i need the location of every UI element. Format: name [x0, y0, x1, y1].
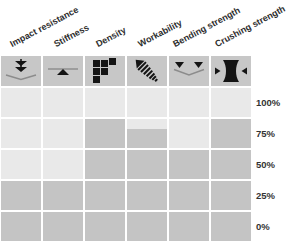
grid-cell [211, 212, 251, 241]
grid-cell [127, 150, 167, 179]
grid-cell [127, 212, 167, 241]
impact-resistance-icon-box [1, 56, 41, 86]
bending-strength-icon [169, 56, 209, 86]
column-header-impact-resistance: Impact resistance [9, 5, 80, 49]
grid-cell [1, 181, 41, 210]
grid-cell [211, 119, 251, 148]
grid-cell [211, 181, 251, 210]
grid-cell [169, 181, 209, 210]
density-icon-box [85, 56, 125, 86]
grid-cell [1, 88, 41, 117]
crushing-strength-icon-box [211, 56, 251, 86]
y-axis-label-100: 100% [256, 88, 280, 117]
grid-cell [43, 119, 83, 148]
grid-cell [127, 119, 167, 148]
grid-cell [169, 150, 209, 179]
grid-cell [85, 88, 125, 117]
grid-cell [43, 181, 83, 210]
heatmap-grid [1, 56, 251, 241]
grid-cell [85, 119, 125, 148]
y-axis-label-0: 0% [256, 212, 280, 241]
grid-cell [85, 150, 125, 179]
grid-cell [43, 212, 83, 241]
y-axis-label-75: 75% [256, 119, 280, 148]
material-property-chart: Impact resistance Stiffness Density Work… [0, 0, 291, 243]
workability-icon [127, 56, 167, 86]
grid-cell [43, 88, 83, 117]
y-axis-label-50: 50% [256, 150, 280, 179]
crushing-strength-icon [211, 56, 251, 86]
impact-resistance-icon [1, 56, 41, 86]
column-header-bending-strength: Bending strength [172, 6, 242, 49]
stiffness-icon [43, 56, 83, 86]
grid-cell [43, 150, 83, 179]
grid-cell [169, 88, 209, 117]
grid-cell [1, 212, 41, 241]
grid-cell [211, 88, 251, 117]
bending-strength-icon-box [169, 56, 209, 86]
column-header-stiffness: Stiffness [53, 23, 91, 49]
grid-cell [1, 119, 41, 148]
y-axis-label-25: 25% [256, 181, 280, 210]
grid-cell [127, 181, 167, 210]
grid-cell [211, 150, 251, 179]
partial-fill-light-band [127, 119, 167, 129]
y-axis-labels: 100% 75% 50% 25% 0% [256, 88, 280, 243]
grid-cell [85, 212, 125, 241]
grid-cell [169, 119, 209, 148]
grid-cell [127, 88, 167, 117]
grid-cell [1, 150, 41, 179]
grid-cell [85, 181, 125, 210]
stiffness-icon-box [43, 56, 83, 86]
density-icon [85, 56, 125, 86]
workability-icon-box [127, 56, 167, 86]
grid-cell [169, 212, 209, 241]
column-header-density: Density [95, 26, 128, 49]
